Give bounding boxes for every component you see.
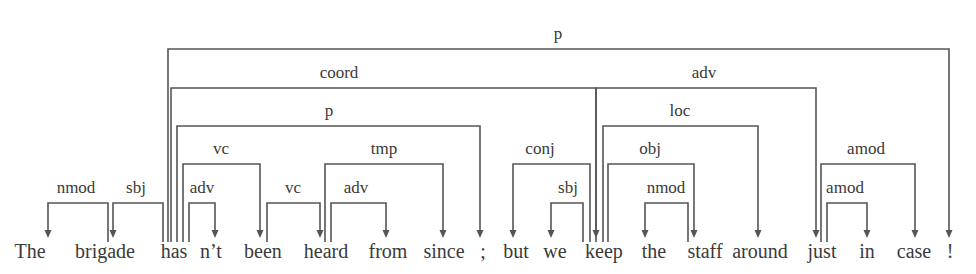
arrowhead-icon (946, 230, 953, 238)
arc-label: vc (213, 139, 230, 158)
arc-line (113, 203, 163, 242)
arc-line (267, 203, 320, 242)
arc-line (827, 203, 867, 242)
arrowhead-icon (642, 230, 649, 238)
dependency-arc-sbj (110, 203, 164, 242)
token: The (14, 240, 45, 262)
arrowhead-icon (912, 230, 919, 238)
token: staff (687, 240, 723, 262)
arc-label: adv (190, 178, 215, 197)
dependency-arc-sbj (548, 203, 584, 242)
arc-labels: pcoordpvcadvsbjnmodvctmpadvadvlocobjconj… (57, 24, 886, 197)
dependency-arc-nmod (45, 203, 109, 242)
token: heard (304, 240, 348, 262)
arrowhead-icon (212, 230, 219, 238)
arrowhead-icon (383, 230, 390, 238)
arc-line (171, 88, 596, 242)
arc-label: loc (670, 101, 691, 120)
token: has (161, 240, 188, 262)
arc-label: amod (847, 139, 885, 158)
arc-line (189, 203, 215, 242)
dependency-arc-adv (596, 88, 820, 242)
token: around (732, 240, 788, 262)
arc-label: vc (285, 178, 302, 197)
token: brigade (75, 240, 135, 263)
arc-label: sbj (126, 178, 146, 197)
arrowhead-icon (813, 230, 820, 238)
arrowhead-icon (257, 230, 264, 238)
arc-line (551, 203, 583, 242)
arrowhead-icon (548, 230, 555, 238)
token: n’t (200, 240, 222, 262)
dependency-parse-diagram: pcoordpvcadvsbjnmodvctmpadvadvlocobjconj… (0, 0, 976, 274)
token: keep (585, 240, 623, 263)
dependency-arc-vc (267, 203, 324, 242)
arc-label: tmp (371, 139, 397, 158)
arrowhead-icon (864, 230, 871, 238)
arc-label: coord (320, 63, 359, 82)
arc-label: conj (525, 139, 554, 158)
token: just (807, 240, 837, 263)
arc-line (645, 203, 688, 242)
arrowhead-icon (45, 230, 52, 238)
token: ! (947, 240, 954, 262)
arrowhead-icon (755, 230, 762, 238)
dependency-arc-adv (189, 203, 219, 242)
token: case (897, 240, 932, 262)
dependency-arc-nmod (642, 203, 689, 242)
arc-line (596, 88, 816, 242)
dependency-arc-p (168, 49, 953, 242)
token: been (244, 240, 282, 262)
arc-line (48, 203, 108, 242)
arrowhead-icon (477, 230, 484, 238)
token: but (503, 240, 529, 262)
arrowhead-icon (440, 230, 447, 238)
sentence-tokens: Thebrigadehasn’tbeenheardfromsince;butwe… (14, 240, 953, 263)
arrowhead-icon (510, 230, 517, 238)
dependency-arcs (45, 49, 953, 242)
token: we (543, 240, 566, 262)
arc-line (331, 203, 386, 242)
arrowhead-icon (110, 230, 117, 238)
arc-line (168, 49, 949, 242)
arc-label: p (554, 24, 563, 43)
token: in (859, 240, 875, 262)
token: the (642, 240, 667, 262)
token: since (423, 240, 464, 262)
token: from (369, 240, 408, 262)
dependency-arc-amod (827, 203, 871, 242)
arc-label: obj (639, 139, 661, 158)
arrowhead-icon (691, 230, 698, 238)
arc-label: adv (344, 178, 369, 197)
arc-label: p (325, 101, 334, 120)
arc-label: sbj (558, 178, 578, 197)
arrowhead-icon (317, 230, 324, 238)
arc-label: nmod (57, 178, 96, 197)
arc-label: adv (692, 63, 717, 82)
dependency-arc-adv (331, 203, 390, 242)
arc-label: amod (826, 178, 864, 197)
token: ; (480, 240, 486, 262)
arc-label: nmod (647, 178, 686, 197)
